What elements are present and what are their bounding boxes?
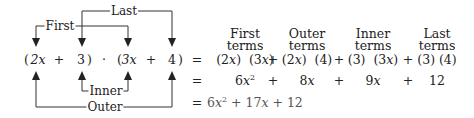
product-last: (3) (4)	[417, 54, 456, 67]
foil-diagram: Last First Inner Outer ( 2x + 3 ) · ( 3x…	[0, 0, 474, 118]
plus-r2-2: +	[334, 75, 344, 88]
header-last-line2: terms	[419, 40, 456, 53]
term-3: 3	[77, 54, 85, 67]
first-label: First	[45, 20, 76, 32]
final-result: 6x2 + 17x + 12	[207, 97, 303, 110]
equals-3: =	[192, 97, 202, 110]
multiply-dot: ·	[102, 54, 106, 67]
outer-label: Outer	[86, 101, 123, 113]
result-last: 12	[429, 75, 445, 88]
close-paren-2: )	[178, 54, 183, 67]
product-outer: (2x) (4)	[282, 54, 332, 67]
result-inner: 9x	[365, 75, 380, 88]
result-first: 6x2	[235, 75, 255, 88]
plus-1: +	[54, 54, 64, 67]
product-first: (2x) (3x)	[216, 54, 274, 67]
plus-r2-3: +	[403, 75, 413, 88]
result-outer: 8x	[299, 75, 314, 88]
plus-r2-1: +	[268, 75, 278, 88]
header-inner-line2: terms	[355, 40, 392, 53]
close-paren-1: )	[87, 54, 92, 67]
plus-r1-1: +	[268, 54, 278, 67]
term-2x: 2x	[30, 54, 45, 67]
plus-r1-3: +	[403, 54, 413, 67]
term-3x: 3x	[121, 54, 136, 67]
open-paren-1: (	[24, 54, 29, 67]
term-4: 4	[168, 54, 176, 67]
header-first-line2: terms	[227, 40, 264, 53]
equals-1: =	[192, 54, 202, 67]
header-outer-line2: terms	[289, 40, 326, 53]
equals-2: =	[192, 75, 202, 88]
last-label: Last	[110, 5, 138, 17]
inner-label: Inner	[88, 85, 123, 97]
product-inner: (3) (3x)	[348, 54, 398, 67]
plus-r1-2: +	[334, 54, 344, 67]
plus-2: +	[146, 54, 156, 67]
